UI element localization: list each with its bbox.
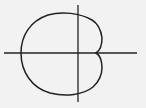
cardioid-curve — [21, 13, 102, 95]
diagram — [0, 0, 146, 108]
